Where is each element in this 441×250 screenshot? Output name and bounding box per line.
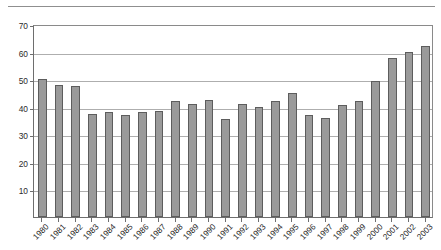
y-axis-tick-label: 50 bbox=[19, 77, 28, 85]
x-tick-mark bbox=[275, 218, 276, 222]
x-axis-tick-label: 1992 bbox=[232, 223, 251, 242]
x-tick-mark bbox=[291, 218, 292, 222]
plot-area: 10203040506070 bbox=[33, 25, 433, 218]
x-tick-mark bbox=[425, 218, 426, 222]
x-tick-mark bbox=[208, 218, 209, 222]
bar-1986 bbox=[138, 112, 147, 217]
x-axis-tick-label: 1980 bbox=[32, 223, 51, 242]
y-axis-tick-label: 70 bbox=[19, 22, 28, 30]
x-tick-mark bbox=[325, 218, 326, 222]
x-axis-tick-label: 2000 bbox=[366, 223, 385, 242]
bar-1999 bbox=[355, 101, 364, 217]
bar-1989 bbox=[188, 104, 197, 217]
top-divider-rule bbox=[8, 6, 435, 7]
x-tick-mark bbox=[241, 218, 242, 222]
bar-1994 bbox=[271, 101, 280, 217]
x-axis-tick-label: 1981 bbox=[49, 223, 68, 242]
x-axis-tick-label: 1996 bbox=[299, 223, 318, 242]
x-axis-tick-label: 1986 bbox=[132, 223, 151, 242]
x-tick-mark bbox=[141, 218, 142, 222]
bar-1993 bbox=[255, 107, 264, 217]
x-axis-tick-label: 1993 bbox=[249, 223, 268, 242]
x-axis-tick-label: 1989 bbox=[182, 223, 201, 242]
bar-1998 bbox=[338, 105, 347, 217]
x-tick-mark bbox=[258, 218, 259, 222]
bar-1992 bbox=[238, 104, 247, 217]
y-axis-tick-label: 30 bbox=[19, 132, 28, 140]
bar-1983 bbox=[88, 114, 97, 217]
x-tick-mark bbox=[75, 218, 76, 222]
x-axis-tick-label: 2002 bbox=[399, 223, 418, 242]
x-axis-tick-label: 1995 bbox=[282, 223, 301, 242]
x-tick-mark bbox=[375, 218, 376, 222]
bar-2000 bbox=[371, 81, 380, 217]
y-axis-tick-label: 20 bbox=[19, 160, 28, 168]
x-tick-mark bbox=[308, 218, 309, 222]
bar-1982 bbox=[71, 86, 80, 217]
x-axis-tick-label: 1988 bbox=[166, 223, 185, 242]
bar-chart-figure: 10203040506070 1980198119821983198419851… bbox=[0, 0, 441, 250]
bars-container bbox=[34, 26, 432, 217]
bar-1984 bbox=[105, 112, 114, 217]
x-axis-tick-label: 1994 bbox=[266, 223, 285, 242]
x-tick-mark bbox=[391, 218, 392, 222]
x-tick-mark bbox=[125, 218, 126, 222]
x-axis-tick-label: 1983 bbox=[82, 223, 101, 242]
x-tick-mark bbox=[91, 218, 92, 222]
bar-1995 bbox=[288, 93, 297, 217]
bar-1981 bbox=[55, 85, 64, 217]
bar-1996 bbox=[305, 115, 314, 217]
x-tick-mark bbox=[58, 218, 59, 222]
x-axis-tick-label: 2001 bbox=[382, 223, 401, 242]
x-axis: 1980198119821983198419851986198719881989… bbox=[33, 218, 433, 250]
x-axis-tick-label: 1985 bbox=[116, 223, 135, 242]
x-tick-mark bbox=[108, 218, 109, 222]
bar-2001 bbox=[388, 58, 397, 217]
y-axis-tick-label: 40 bbox=[19, 105, 28, 113]
y-axis-tick-label: 60 bbox=[19, 49, 28, 57]
x-tick-mark bbox=[408, 218, 409, 222]
x-tick-mark bbox=[158, 218, 159, 222]
x-tick-mark bbox=[358, 218, 359, 222]
x-axis-tick-label: 1999 bbox=[349, 223, 368, 242]
x-axis-tick-label: 1982 bbox=[66, 223, 85, 242]
bar-1991 bbox=[221, 119, 230, 217]
bar-1980 bbox=[38, 79, 47, 217]
bar-1988 bbox=[171, 101, 180, 217]
x-tick-mark bbox=[225, 218, 226, 222]
x-axis-tick-label: 1987 bbox=[149, 223, 168, 242]
x-axis-tick-label: 1990 bbox=[199, 223, 218, 242]
x-tick-mark bbox=[191, 218, 192, 222]
bar-2003 bbox=[421, 46, 430, 217]
bar-1987 bbox=[155, 111, 164, 217]
bar-1997 bbox=[321, 118, 330, 217]
x-tick-mark bbox=[175, 218, 176, 222]
x-axis-tick-label: 1997 bbox=[316, 223, 335, 242]
x-tick-mark bbox=[41, 218, 42, 222]
bar-1985 bbox=[121, 115, 130, 217]
bar-2002 bbox=[405, 52, 414, 217]
x-axis-tick-label: 1984 bbox=[99, 223, 118, 242]
y-axis-tick-label: 10 bbox=[19, 187, 28, 195]
x-axis-tick-label: 2003 bbox=[416, 223, 435, 242]
x-axis-tick-label: 1998 bbox=[332, 223, 351, 242]
x-tick-mark bbox=[341, 218, 342, 222]
x-axis-tick-label: 1991 bbox=[216, 223, 235, 242]
bar-1990 bbox=[205, 100, 214, 217]
